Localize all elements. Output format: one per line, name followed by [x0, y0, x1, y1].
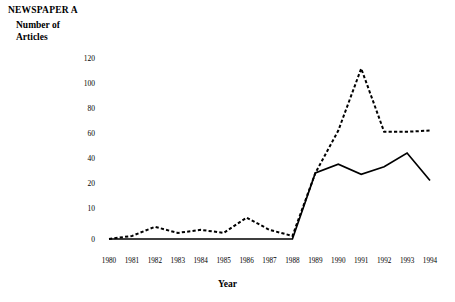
x-axis-tick-label: 1994 [423, 257, 438, 265]
y-axis-tick-label: 100 [84, 79, 96, 88]
x-axis-tick-label: 1993 [400, 257, 415, 265]
y-axis-tick-label: 10 [88, 204, 96, 213]
y-axis-tick-label: 120 [84, 54, 96, 63]
x-axis-tick-labels: 1980198119821983198419851986198719881989… [102, 257, 438, 265]
x-axis-tick-label: 1981 [125, 257, 140, 265]
data-series-line [109, 153, 430, 239]
x-axis-tick-label: 1983 [171, 257, 186, 265]
y-axis-tick-label: 20 [88, 179, 96, 188]
x-axis-tick-label: 1984 [194, 257, 209, 265]
y-axis-tick-labels: 01020406080100120 [84, 54, 96, 244]
x-axis-tick-label: 1988 [285, 257, 300, 265]
x-axis-tick-label: 1987 [262, 257, 277, 265]
x-axis-tick-label: 1982 [148, 257, 163, 265]
x-axis-tick-label: 1992 [377, 257, 392, 265]
x-axis-tick-label: 1986 [239, 257, 254, 265]
x-axis-tick-label: 1990 [331, 257, 346, 265]
x-axis-label: Year [0, 279, 455, 289]
x-axis-tick-label: 1991 [354, 257, 369, 265]
data-series-line [109, 69, 430, 240]
x-axis-tick-label: 1989 [308, 257, 323, 265]
y-axis-tick-label: 60 [88, 129, 96, 138]
chart-container: NEWSPAPER A Number of Articles 010204060… [0, 0, 455, 302]
x-axis-tick-label: 1985 [216, 257, 231, 265]
y-axis-tick-label: 40 [88, 154, 96, 163]
plot-area: 01020406080100120 1980198119821983198419… [0, 0, 455, 302]
data-series-group [109, 69, 430, 240]
y-axis-tick-label: 80 [88, 104, 96, 113]
y-axis-tick-label: 0 [91, 235, 95, 244]
x-axis-tick-label: 1980 [102, 257, 117, 265]
